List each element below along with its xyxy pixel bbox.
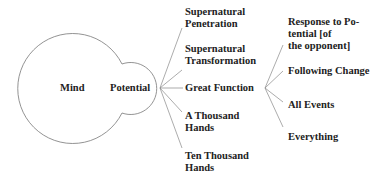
sub-branch-line	[265, 88, 283, 102]
sub-branch-everything: Everything	[288, 131, 338, 143]
branch-a-thousand-hands: A Thousand Hands	[185, 110, 239, 134]
branch-great-function: Great Function	[185, 82, 254, 94]
branch-line	[160, 88, 182, 112]
branch-supernatural-transformation: Supernatural Transformation	[185, 43, 256, 67]
branch-line	[160, 88, 182, 148]
sub-branch-line	[265, 88, 283, 127]
sub-branch-following-change: Following Change	[288, 65, 369, 77]
branch-supernatural-penetration: Supernatural Penetration	[185, 6, 245, 30]
sub-branch-all-events: All Events	[288, 99, 334, 111]
potential-label: Potential	[110, 82, 150, 94]
branch-ten-thousand-hands: Ten Thousand Hands	[185, 150, 249, 174]
mind-label: Mind	[60, 82, 85, 94]
sub-branch-line	[265, 45, 283, 88]
sub-branch-response-to-potential: Response to Po- tential [of the opponent…	[288, 16, 359, 52]
sub-branch-line	[265, 71, 283, 88]
